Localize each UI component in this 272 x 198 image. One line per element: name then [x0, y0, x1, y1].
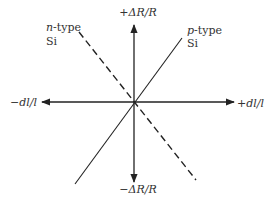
label-negative-dl: −dl/l	[10, 96, 37, 109]
n-type-suffix: -type	[53, 21, 81, 34]
n-type-si-line	[79, 32, 196, 180]
n-type-si-label: n-type Si	[46, 21, 81, 48]
n-type-prefix: n	[46, 21, 53, 34]
label-positive-delta-r: +ΔR/R	[119, 6, 156, 19]
label-positive-dl: +dl/l	[237, 97, 264, 110]
p-type-suffix: -type	[194, 24, 222, 37]
svg-text:n-type: n-type	[46, 21, 81, 34]
svg-text:p-type: p-type	[187, 24, 222, 37]
label-negative-delta-r: −ΔR/R	[119, 183, 156, 196]
p-type-si-line	[75, 38, 182, 184]
p-type-prefix: p	[187, 24, 194, 37]
p-type-si-label: p-type Si	[187, 24, 222, 50]
n-type-material: Si	[46, 35, 58, 48]
p-type-material: Si	[187, 37, 199, 50]
piezoresistance-diagram: +ΔR/R −ΔR/R −dl/l +dl/l n-type Si p-type…	[0, 0, 272, 198]
